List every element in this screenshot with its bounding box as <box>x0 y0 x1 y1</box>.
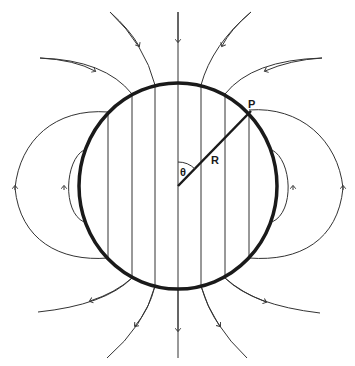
radius-line <box>178 111 251 186</box>
diagram-canvas: P R θ <box>0 0 355 366</box>
field-diagram: P R θ <box>0 0 355 366</box>
radius-label: R <box>211 154 219 166</box>
theta-label: θ <box>180 166 186 178</box>
point-label: P <box>248 98 255 110</box>
